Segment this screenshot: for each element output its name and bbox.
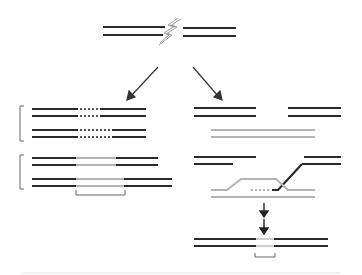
arrow-down-right-icon [193, 67, 222, 100]
left-deletion-group [20, 106, 146, 141]
insertion-bracket [76, 190, 125, 195]
arrow-down-left-icon [127, 67, 158, 100]
lightning-bolt-icon [159, 18, 181, 45]
arrow-down-icon [260, 203, 268, 234]
repaired-product [194, 239, 328, 257]
strand-invasion [194, 157, 341, 197]
dna-repair-diagram [0, 0, 362, 275]
right-broken-ends [194, 108, 341, 116]
left-insertion-group [20, 155, 172, 195]
homologous-template [211, 130, 315, 137]
repair-bracket [255, 253, 275, 257]
